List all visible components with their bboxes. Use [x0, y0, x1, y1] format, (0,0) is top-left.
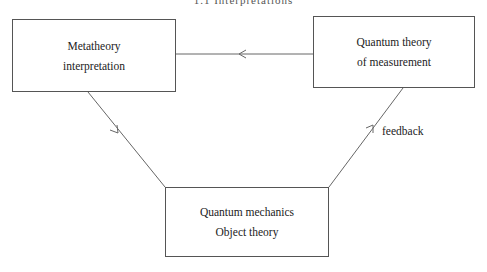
node-quantum-theory-of-measurement: Quantum theory of measurement — [313, 16, 475, 88]
edge-metatheory-to-object — [88, 92, 165, 187]
node-metatheory-interpretation: Metatheory interpretation — [12, 19, 176, 92]
node-line: Quantum mechanics — [200, 202, 294, 222]
edge-label-feedback: feedback — [382, 125, 424, 137]
node-line: Metatheory — [67, 36, 120, 56]
node-line: of measurement — [357, 52, 431, 72]
node-line: interpretation — [63, 56, 125, 76]
node-line: Object theory — [216, 222, 279, 242]
node-line: Quantum theory — [356, 32, 431, 52]
edge-object-to-measurement — [329, 88, 403, 187]
node-quantum-mechanics-object-theory: Quantum mechanics Object theory — [165, 187, 329, 257]
arrowhead-down-right-icon — [110, 125, 118, 133]
